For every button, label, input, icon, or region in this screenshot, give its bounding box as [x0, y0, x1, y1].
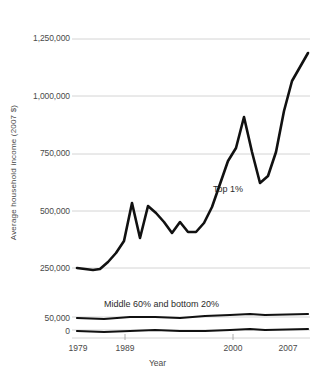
data-line-bottom-20-percent	[77, 329, 308, 332]
data-line-middle-60-percent	[77, 314, 308, 319]
gridlines-bottom-panel	[72, 317, 310, 338]
data-line-top-1-percent	[77, 53, 308, 270]
chart-figure: Average household income (2007 $) 1,250,…	[0, 0, 315, 372]
chart-plot-area	[0, 0, 315, 372]
x-axis-tickmarks	[125, 334, 233, 340]
